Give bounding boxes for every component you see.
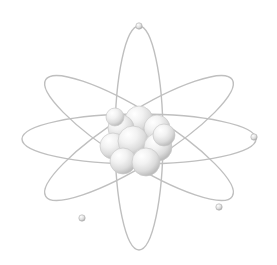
atom-illustration	[0, 0, 277, 265]
atom-diagram-canvas	[0, 0, 277, 265]
nucleon	[132, 148, 160, 176]
electron-right	[251, 134, 257, 140]
nucleon	[153, 124, 175, 146]
electron-bottom-right	[216, 204, 222, 210]
electron-top	[136, 23, 142, 29]
nucleon	[106, 108, 124, 126]
electron-bottom-left	[79, 215, 85, 221]
